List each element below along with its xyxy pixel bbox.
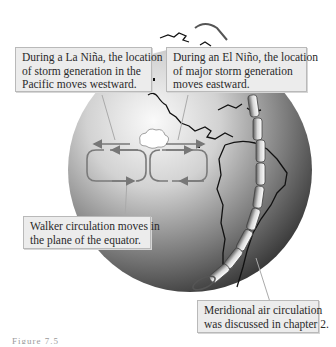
figure: During a La Niña, the location of storm … (0, 0, 336, 347)
el-nino-callout: During an El Niño, the location of major… (166, 47, 307, 92)
meridional-callout-line: was discussed in chapter 2. (204, 318, 313, 332)
el-nino-callout-line: During an El Niño, the location (173, 51, 301, 65)
la-nina-callout: During a La Niña, the location of storm … (15, 47, 152, 92)
figure-caption-cutoff: Figure 7.5 (12, 336, 312, 344)
la-nina-callout-line: Pacific moves westward. (22, 78, 146, 92)
la-nina-callout-line: During a La Niña, the location (22, 51, 146, 65)
walker-callout: Walker circulation moves in the plane of… (23, 216, 151, 249)
walker-callout-line: Walker circulation moves in (30, 220, 145, 234)
el-nino-callout-line: of major storm generation (173, 65, 301, 79)
meridional-callout-line: Meridional air circulation (204, 304, 313, 318)
la-nina-callout-line: of storm generation in the (22, 65, 146, 79)
walker-callout-line: the plane of the equator. (30, 234, 145, 248)
meridional-callout: Meridional air circulation was discussed… (197, 300, 319, 333)
el-nino-callout-line: moves eastward. (173, 78, 301, 92)
